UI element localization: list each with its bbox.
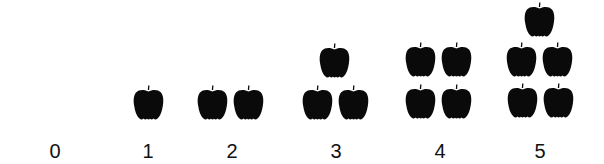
apple-icon <box>405 42 436 78</box>
count-label: 0 <box>40 140 70 162</box>
apple-icon <box>133 85 164 121</box>
count-label: 4 <box>425 140 455 162</box>
apple-icon <box>338 85 369 121</box>
apple-icon <box>543 83 574 119</box>
apple-icon <box>441 42 472 78</box>
apple-icon <box>197 85 228 121</box>
apple-icon <box>441 84 472 120</box>
apple-icon <box>506 42 537 78</box>
apple-icon <box>319 43 350 79</box>
apple-icon <box>302 85 333 121</box>
count-label: 2 <box>217 140 247 162</box>
apple-icon <box>524 2 555 38</box>
apple-icon <box>233 85 264 121</box>
apple-icon <box>405 84 436 120</box>
count-label: 5 <box>525 140 555 162</box>
count-label: 1 <box>133 140 163 162</box>
apple-icon <box>507 83 538 119</box>
apple-icon <box>542 42 573 78</box>
count-label: 3 <box>321 140 351 162</box>
